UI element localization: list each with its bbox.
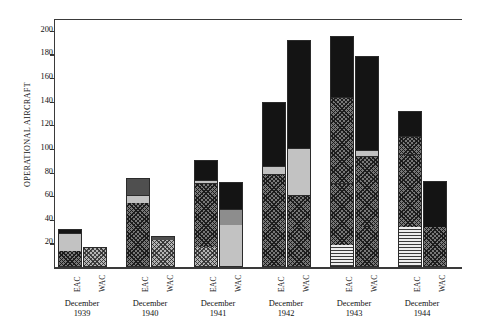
x-group-label: December1944 [388,299,456,318]
bar-segment-lightgray [288,148,310,195]
bar-wac-1941 [219,182,243,267]
bar-eac-1939 [58,229,82,267]
y-tick-label: 140 [40,96,53,105]
bar-wac-1939 [83,247,107,267]
x-axis-labels: EACWACDecember1939EACWACDecember1940EACW… [54,268,462,320]
x-group-month: December [337,299,371,308]
x-series-tick-wac: WAC [234,275,243,292]
bar-segment-crosshatch [399,154,421,227]
bar-segment-crosshatch [263,228,285,266]
x-series-tick-eac: EAC [209,276,218,292]
bar-segment-lightgray [59,233,81,251]
y-axis-title: OPERATIONAL AIRCRAFT [23,50,32,220]
y-tick-label: 180 [40,48,53,57]
x-group-year: 1939 [48,309,116,319]
x-group-month: December [65,299,99,308]
x-series-tick-wac: WAC [302,275,311,292]
bar-segment-black [195,160,217,180]
y-tick-label: 120 [40,119,53,128]
bar-wac-1944 [423,181,447,267]
x-series-tick-eac: EAC [277,276,286,292]
bar-segment-crosshatch [127,203,149,266]
y-tick-label: 160 [40,72,53,81]
bar-segment-black [288,40,310,148]
bar-segment-black [263,102,285,166]
x-series-tick-wac: WAC [438,275,447,292]
bar-segment-crosshatch [288,195,310,228]
bar-segment-crosshatch [59,251,81,266]
x-group-month: December [405,299,439,308]
x-group-month: December [133,299,167,308]
x-series-tick-eac: EAC [73,276,82,292]
x-group-year: 1940 [116,309,184,319]
bar-segment-crosshatch [331,97,353,183]
bar-segment-hlines [399,227,421,266]
x-group-label: December1939 [48,299,116,318]
bar-segment-black [424,181,446,227]
bar-segment-black [59,229,81,233]
x-group-month: December [269,299,303,308]
bar-segment-dots [195,247,217,266]
y-tick-label: 40 [45,214,53,223]
bar-segment-hlines [331,245,353,266]
bar-segment-lightgray [263,166,285,174]
bar-segment-dots [152,240,174,266]
bar-eac-1941 [194,160,218,267]
x-series-tick-wac: WAC [166,275,175,292]
bar-segment-black [220,182,242,209]
bar-eac-1943 [330,36,354,267]
x-series-tick-wac: WAC [98,275,107,292]
bar-segment-black [399,111,421,136]
x-group-label: December1941 [184,299,252,318]
bar-wac-1942 [287,40,311,267]
bar-eac-1944 [398,111,422,267]
bar-segment-crosshatch [288,228,310,266]
bar-segment-lightgray [195,180,217,184]
x-group-year: 1941 [184,309,252,319]
y-tick-label: 200 [40,25,53,34]
x-series-tick-eac: EAC [141,276,150,292]
bar-segment-crosshatch [331,183,353,244]
bar-segment-crosshatch [399,136,421,154]
x-group-label: December1943 [320,299,388,318]
x-series-tick-eac: EAC [345,276,354,292]
bar-segment-dots [84,247,106,266]
bar-segment-crosshatch [263,174,285,228]
bar-chart: OPERATIONAL AIRCRAFT 2040608010012014016… [0,0,481,320]
bar-segment-darkgray [127,178,149,195]
x-group-year: 1944 [388,309,456,319]
bar-segment-black [356,56,378,151]
bar-segment-lightgray [356,150,378,156]
bar-segment-black [331,36,353,98]
x-group-label: December1940 [116,299,184,318]
y-tick-label: 100 [40,143,53,152]
bar-segment-midgray [220,209,242,224]
bar-segment-lightgray [220,225,242,266]
bar-eac-1942 [262,102,286,267]
bars-layer [54,19,462,267]
bar-segment-lightgray [127,195,149,203]
x-series-tick-wac: WAC [370,275,379,292]
x-group-year: 1943 [320,309,388,319]
bar-segment-darkgray [152,236,174,240]
x-series-tick-eac: EAC [413,276,422,292]
x-group-label: December1942 [252,299,320,318]
x-group-year: 1942 [252,309,320,319]
bar-segment-crosshatch [424,227,446,266]
y-tick-label: 60 [45,190,53,199]
y-tick-label: 20 [45,237,53,246]
bar-wac-1943 [355,56,379,267]
y-tick-label: 80 [45,167,53,176]
bar-segment-crosshatch [356,226,378,266]
bar-segment-crosshatch [195,183,217,247]
x-group-month: December [201,299,235,308]
bar-eac-1940 [126,178,150,267]
bar-wac-1940 [151,236,175,267]
bar-segment-crosshatch [356,156,378,226]
